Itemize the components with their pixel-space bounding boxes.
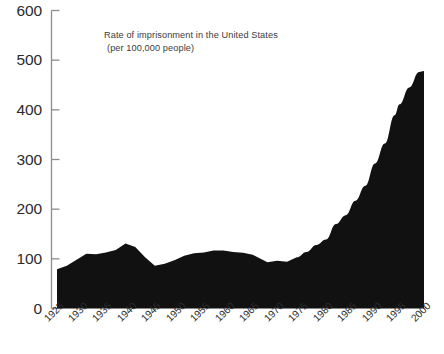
y-axis [52,11,60,309]
y-tick-marks [52,11,60,309]
data-series-group [57,71,424,308]
y-tick-label: 100 [2,250,42,268]
imprisonment-area-path [57,71,424,308]
y-tick-label: 400 [2,101,42,119]
y-tick-label: 600 [2,2,42,20]
y-tick-label: 0 [2,300,42,318]
y-tick-label: 200 [2,200,42,218]
plot-area [0,0,444,354]
y-tick-label: 500 [2,51,42,69]
imprisonment-rate-chart: Rate of imprisonment in the United State… [0,0,444,354]
y-tick-label: 300 [2,151,42,169]
